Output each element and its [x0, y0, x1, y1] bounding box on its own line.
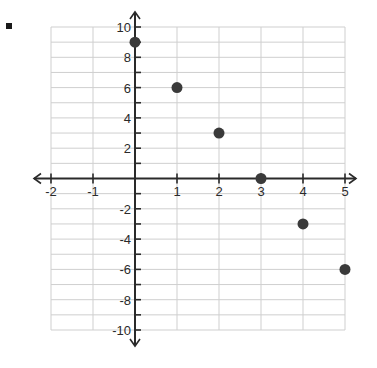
x-tick-label: 3 — [257, 184, 264, 199]
y-tick-label: -10 — [112, 323, 131, 338]
y-tick-label: 10 — [117, 20, 131, 35]
x-tick-label: 4 — [299, 184, 306, 199]
data-point — [256, 173, 267, 184]
axes — [34, 12, 356, 346]
y-tick-label: 6 — [124, 81, 131, 96]
data-point — [298, 218, 309, 229]
data-point — [214, 128, 225, 139]
x-tick-label: 5 — [341, 184, 348, 199]
y-tick-label: 4 — [124, 111, 131, 126]
data-point — [172, 82, 183, 93]
y-tick-label: 2 — [124, 141, 131, 156]
x-tick-label: 1 — [173, 184, 180, 199]
x-tick-label: 2 — [215, 184, 222, 199]
data-point — [340, 264, 351, 275]
scatter-chart: -2-112345 108642-2-4-6-8-10 — [0, 0, 377, 368]
y-tick-label: -8 — [119, 293, 131, 308]
x-tick-label: -1 — [87, 184, 99, 199]
x-tick-labels: -2-112345 — [45, 184, 348, 199]
y-tick-label: -2 — [119, 202, 131, 217]
y-tick-label: -6 — [119, 262, 131, 277]
y-tick-label: -4 — [119, 232, 131, 247]
data-point — [130, 37, 141, 48]
y-tick-label: 8 — [124, 50, 131, 65]
x-tick-label: -2 — [45, 184, 57, 199]
